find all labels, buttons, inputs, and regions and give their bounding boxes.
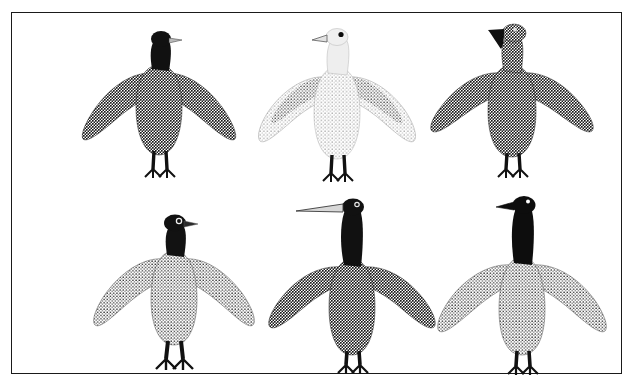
- bird-figure-bottom-left: [84, 193, 264, 375]
- bird-6-body: [499, 257, 545, 355]
- bird-4-body: [151, 251, 197, 345]
- print-frame-border: [11, 12, 622, 374]
- bird-4-head: [164, 215, 186, 232]
- bird-figure-bottom-right: [432, 189, 612, 375]
- bird-3-body: [488, 65, 536, 157]
- bird-2-head: [326, 29, 348, 46]
- bird-3-head: [502, 24, 526, 42]
- bird-5-beak-icon: [296, 204, 343, 212]
- bird-2-beak-icon: [312, 35, 327, 42]
- artwork-page: Six Birds: [0, 0, 634, 385]
- bird-1-beak-icon: [169, 38, 182, 43]
- bird-5-head: [342, 199, 364, 216]
- bird-6-eye-icon: [526, 200, 530, 204]
- bird-6-beak-icon: [496, 202, 514, 210]
- bird-4-beak-icon: [184, 221, 198, 227]
- bird-6-head: [513, 196, 536, 214]
- bird-3-eye-icon: [513, 28, 517, 32]
- bird-1-body: [136, 65, 182, 155]
- bird-2-eye-icon: [338, 32, 343, 37]
- bird-figure-bottom-center: [262, 189, 442, 375]
- bird-1-head: [151, 31, 171, 47]
- bird-figure-top-right: [422, 15, 602, 195]
- bird-3-beak-icon: [488, 29, 504, 49]
- bird-figure-top-left: [74, 21, 244, 196]
- bird-2-body: [314, 67, 360, 159]
- print-canvas: [12, 13, 621, 373]
- bird-figure-top-center: [252, 15, 422, 195]
- bird-4-legs: [156, 341, 193, 370]
- bird-5-body: [329, 259, 375, 355]
